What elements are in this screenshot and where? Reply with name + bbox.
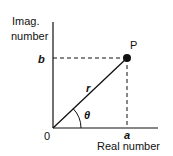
x-axis-label: Real number [97,141,160,152]
complex-plane-diagram: Imag. number b P r θ 0 a Real number [0,0,173,156]
point-p-label: P [130,40,137,51]
b-label: b [38,54,45,65]
theta-label: θ [84,110,90,121]
point-p-marker [123,54,131,62]
y-axis-label-line2: number [11,31,48,42]
r-label: r [86,83,90,94]
origin-label: 0 [44,131,50,142]
theta-angle-arc [73,109,81,128]
y-axis-label-line1: Imag. [12,16,40,27]
